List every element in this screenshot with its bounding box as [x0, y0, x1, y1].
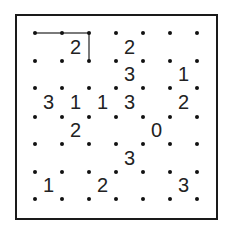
- cell-clue[interactable]: 2: [170, 89, 197, 116]
- cell-clue[interactable]: 2: [116, 34, 143, 61]
- cell-clue[interactable]: [116, 117, 143, 144]
- cell-clue[interactable]: [62, 145, 89, 172]
- cell-clue[interactable]: [143, 89, 170, 116]
- cell-clue[interactable]: [89, 61, 116, 88]
- cell-clue[interactable]: [35, 61, 62, 88]
- cell-clue[interactable]: [143, 172, 170, 199]
- cell-clue[interactable]: 3: [170, 172, 197, 199]
- cell-clue[interactable]: 2: [62, 117, 89, 144]
- cell-clue[interactable]: 0: [143, 117, 170, 144]
- cell-clue[interactable]: [62, 172, 89, 199]
- cell-clue[interactable]: [35, 145, 62, 172]
- cell-clue[interactable]: [89, 34, 116, 61]
- cell-clue[interactable]: [170, 145, 197, 172]
- cell-clue[interactable]: [143, 61, 170, 88]
- cell-clue[interactable]: 2: [89, 172, 116, 199]
- cell-clue[interactable]: [89, 117, 116, 144]
- cell-clue[interactable]: 3: [116, 145, 143, 172]
- cell-clue[interactable]: 3: [116, 89, 143, 116]
- cell-clue[interactable]: 3: [35, 89, 62, 116]
- cell-clue[interactable]: 1: [62, 89, 89, 116]
- cell-clue[interactable]: [116, 172, 143, 199]
- cell-clue[interactable]: [89, 145, 116, 172]
- cell-clue[interactable]: 1: [170, 61, 197, 88]
- cell-clue[interactable]: [143, 145, 170, 172]
- cell-clue[interactable]: 3: [116, 61, 143, 88]
- cell-clue[interactable]: 2: [62, 34, 89, 61]
- cell-clue[interactable]: [143, 34, 170, 61]
- slitherlink-grid[interactable]: 223131132203123: [0, 0, 225, 229]
- cell-clue[interactable]: [35, 34, 62, 61]
- cell-clue[interactable]: 1: [35, 172, 62, 199]
- cell-clue[interactable]: [170, 34, 197, 61]
- cell-clue[interactable]: [35, 117, 62, 144]
- cell-clue[interactable]: [170, 117, 197, 144]
- cell-clue[interactable]: [62, 61, 89, 88]
- cell-clue[interactable]: 1: [89, 89, 116, 116]
